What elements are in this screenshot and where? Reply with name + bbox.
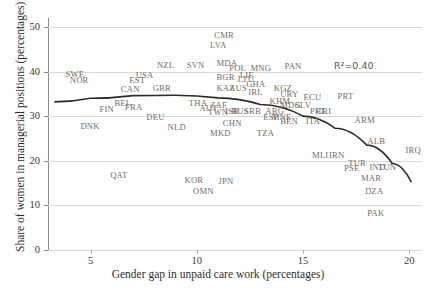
plot-area: 010203040505101520 CMRLVANZLSVNMDAPOLMNG… <box>48 18 422 250</box>
data-point-label: IRL <box>248 88 262 97</box>
x-tick-label: 20 <box>389 256 429 267</box>
data-point-label: IRN <box>329 151 344 160</box>
data-point-label: PRT <box>338 92 354 101</box>
data-point-label: LVA <box>210 41 226 50</box>
gridline-y <box>48 250 422 251</box>
r-squared-annotation: R²=0.40 <box>334 60 374 71</box>
data-point-label: ARM <box>355 116 375 125</box>
y-tick-label: 40 <box>10 67 40 78</box>
x-tick-mark <box>303 250 304 254</box>
x-tick-label: 15 <box>283 256 323 267</box>
data-point-label: DEU <box>146 113 164 122</box>
data-point-label: NOR <box>70 76 89 85</box>
y-tick-mark <box>44 116 48 117</box>
data-point-label: CRI <box>316 107 331 116</box>
y-tick-mark <box>44 250 48 251</box>
data-point-label: NZL <box>157 61 174 70</box>
data-point-label: IRQ <box>406 146 421 155</box>
data-point-label: JPN <box>219 177 234 186</box>
y-tick-mark <box>44 161 48 162</box>
data-point-label: PAN <box>284 62 301 71</box>
scatter-chart: Share of women in managerial positions (… <box>0 0 436 290</box>
x-tick-mark <box>197 250 198 254</box>
data-point-label: TUN <box>378 163 396 172</box>
y-tick-label: 0 <box>10 245 40 256</box>
data-point-label: SRB <box>244 107 261 116</box>
y-tick-mark <box>44 27 48 28</box>
data-point-label: ALB <box>367 137 385 146</box>
y-axis-line <box>48 18 49 250</box>
gridline-y <box>48 205 422 206</box>
data-point-label: GBR <box>153 84 171 93</box>
data-point-label: MKD <box>210 129 231 138</box>
data-point-label: MAR <box>361 174 381 183</box>
data-point-label: TZA <box>257 129 274 138</box>
data-point-label: CHN <box>223 119 242 128</box>
y-tick-label: 30 <box>10 111 40 122</box>
x-tick-mark <box>409 250 410 254</box>
data-point-label: DZA <box>365 187 383 196</box>
data-point-label: MLI <box>312 151 328 160</box>
x-axis-title: Gender gap in unpaid care work (percenta… <box>0 268 436 280</box>
data-point-label: KOR <box>185 176 204 185</box>
data-point-label: SLV <box>295 101 311 110</box>
gridline-y <box>48 27 422 28</box>
y-axis-title: Share of women in managerial positions (… <box>14 2 26 252</box>
data-point-label: CMR <box>214 31 234 40</box>
y-tick-mark <box>44 72 48 73</box>
data-point-label: ITA <box>306 117 320 126</box>
y-tick-label: 50 <box>10 22 40 33</box>
data-point-label: QAT <box>110 171 127 180</box>
y-tick-mark <box>44 205 48 206</box>
data-point-label: NLD <box>168 123 186 132</box>
data-point-label: BGR <box>216 73 234 82</box>
x-tick-mark <box>91 250 92 254</box>
data-point-label: PAK <box>367 209 384 218</box>
y-tick-label: 10 <box>10 200 40 211</box>
data-point-label: BEN <box>280 117 298 126</box>
data-point-label: PSE <box>344 164 359 173</box>
data-point-label: FIN <box>100 105 114 114</box>
data-point-label: CAN <box>121 85 140 94</box>
data-point-label: FRA <box>125 103 142 112</box>
trendline <box>48 18 422 250</box>
data-point-label: OMN <box>193 187 214 196</box>
y-tick-label: 20 <box>10 156 40 167</box>
x-tick-label: 10 <box>177 256 217 267</box>
data-point-label: SVN <box>187 61 205 70</box>
data-point-label: DNK <box>80 122 99 131</box>
data-point-label: AUS <box>229 84 247 93</box>
x-tick-label: 5 <box>71 256 111 267</box>
